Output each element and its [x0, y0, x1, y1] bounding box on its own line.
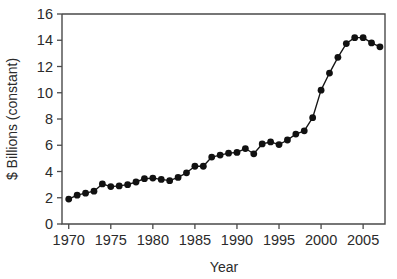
data-point [343, 40, 350, 47]
y-tick-label: 10 [37, 85, 53, 101]
axis-tick-labels: 0246810121416197019751980198519901995200… [37, 6, 379, 248]
y-tick-label: 2 [45, 190, 53, 206]
data-point [234, 149, 241, 156]
x-tick-label: 2005 [347, 232, 379, 248]
data-point [318, 87, 325, 94]
data-point [116, 183, 123, 190]
data-point [141, 175, 148, 182]
data-point [284, 137, 291, 144]
chart-figure: 0246810121416197019751980198519901995200… [0, 0, 397, 279]
data-point [250, 150, 257, 157]
data-point [192, 163, 199, 170]
data-point [276, 141, 283, 148]
y-tick-label: 14 [37, 32, 53, 48]
data-point [242, 145, 249, 152]
y-axis-title: $ Billions (constant) [4, 58, 20, 180]
y-tick-label: 12 [37, 59, 53, 75]
data-point [65, 196, 72, 203]
data-point [91, 188, 98, 195]
y-tick-label: 8 [45, 111, 53, 127]
data-points [65, 34, 383, 202]
data-point [217, 152, 224, 159]
data-point [107, 183, 114, 190]
data-point [99, 181, 106, 188]
x-tick-label: 1995 [263, 232, 295, 248]
data-point [225, 150, 232, 157]
data-point [292, 131, 299, 138]
data-series [69, 38, 380, 199]
axes [62, 14, 385, 224]
x-tick-label: 1990 [221, 232, 253, 248]
y-tick-label: 0 [45, 216, 53, 232]
x-tick-label: 1970 [53, 232, 85, 248]
x-tick-label: 1980 [137, 232, 169, 248]
plot-frame [62, 14, 385, 224]
y-tick-label: 4 [45, 164, 53, 180]
data-point [326, 70, 333, 77]
data-point [335, 54, 342, 61]
data-point [133, 179, 140, 186]
x-tick-label: 2000 [305, 232, 337, 248]
data-point [377, 43, 384, 50]
x-tick-label: 1975 [95, 232, 127, 248]
y-tick-label: 16 [37, 6, 53, 22]
data-point [301, 127, 308, 134]
data-point [124, 181, 131, 188]
data-point [208, 154, 215, 161]
data-point [267, 139, 274, 146]
series-line [69, 38, 380, 199]
data-point [351, 34, 358, 41]
y-tick-label: 6 [45, 137, 53, 153]
x-axis-title: Year [210, 259, 239, 275]
data-point [82, 190, 89, 197]
data-point [175, 174, 182, 181]
data-point [360, 34, 367, 41]
x-tick-label: 1985 [179, 232, 211, 248]
data-point [183, 169, 190, 176]
axis-ticks [57, 14, 363, 229]
data-point [149, 175, 156, 182]
data-point [158, 176, 165, 183]
data-point [200, 163, 207, 170]
data-point [309, 114, 316, 121]
data-point [74, 192, 81, 199]
line-chart: 0246810121416197019751980198519901995200… [0, 0, 397, 279]
data-point [166, 177, 173, 184]
data-point [368, 39, 375, 46]
data-point [259, 141, 266, 148]
